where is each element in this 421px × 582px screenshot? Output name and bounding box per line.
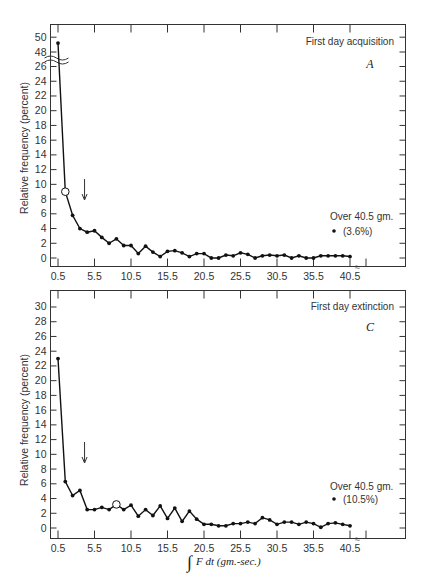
data-point [231,522,235,526]
panel-title: First day extinction [311,301,394,312]
data-point [129,244,133,248]
y-tick-label: 2 [41,507,47,519]
over-marker [332,229,336,233]
open-marker [113,501,121,509]
data-point [217,256,221,260]
data-point [341,522,345,526]
data-point [122,244,126,248]
y-tick-label: 50 [35,31,47,43]
x-tick-label: 25.5 [230,542,251,554]
data-point [93,508,97,512]
data-point [63,480,67,484]
data-point [282,253,286,257]
data-point [202,522,206,526]
open-marker [62,188,70,196]
data-point [136,514,140,518]
y-tick-label: 30 [35,300,47,312]
x-tick-label: 15.5 [157,542,178,554]
data-point [100,505,104,509]
over-value: (10.5%) [343,494,378,505]
data-point [195,252,199,256]
data-point [246,520,250,524]
y-tick-label: 18 [35,389,47,401]
data-point [290,256,294,260]
data-point [78,227,82,231]
data-point [312,256,316,260]
data-point [297,254,301,258]
axis-break-icon [45,60,69,64]
y-tick-label: 20 [35,104,47,116]
data-point [334,521,338,525]
axis-break-icon: ≈ [355,262,360,272]
y-axis-label: Relative frequency (percent) [18,354,30,486]
x-tick-label: 20.5 [194,270,215,282]
y-tick-label: 22 [35,89,47,101]
y-tick-label: 10 [35,178,47,190]
data-point [115,237,119,241]
integral-sign-icon: ∫ [186,552,193,573]
y-tick-label: 16 [35,404,47,416]
x-tick-label: 10.5 [121,542,142,554]
y-tick-label: 6 [41,477,47,489]
data-point [253,256,257,260]
data-point [304,256,308,260]
x-tick-label: 30.5 [267,270,288,282]
x-tick-label: 0.5 [51,270,66,282]
x-tick-label: 10.5 [121,270,142,282]
data-point [122,508,126,512]
y-tick-label: 12 [35,433,47,445]
panel-c: 0.55.510.515.520.525.530.535.540.5≈ 0246… [18,291,406,554]
y-tick-label: 4 [41,222,47,234]
data-point [71,494,75,498]
data-point [202,252,206,256]
x-axis-ticks: 0.55.510.515.520.525.530.535.540.5≈ [51,291,366,554]
data-point [246,252,250,256]
y-tick-label: 8 [41,193,47,205]
data-point [282,520,286,524]
data-point [158,504,162,508]
x-axis-ticks: 0.55.510.515.520.525.530.535.540.5≈ [51,25,366,282]
y-axis-label: Relative frequency (percent) [18,82,30,214]
data-point [188,509,192,513]
data-point [129,503,133,507]
data-point [253,522,257,526]
right-axis-ticks [400,37,406,258]
data-point [268,518,272,522]
panel-letter: A [365,57,374,71]
data-point [231,254,235,258]
axis-break-icon [45,56,69,60]
y-tick-label: 16 [35,134,47,146]
data-point [188,255,192,259]
panel-title: First day acquisition [306,36,394,47]
data-point [209,522,213,526]
y-tick-label: 0 [41,252,47,264]
x-tick-label: 5.5 [87,542,102,554]
x-tick-label: 35.5 [303,542,324,554]
data-line [58,43,350,258]
y-tick-label: 8 [41,463,47,475]
y-tick-label: 10 [35,448,47,460]
data-point [166,249,170,253]
data-point [151,514,155,518]
y-tick-label: 48 [35,46,47,58]
data-point [224,524,228,528]
data-point [209,256,213,260]
data-point [334,254,338,258]
y-tick-label: 2 [41,237,47,249]
y-tick-label: 28 [35,315,47,327]
data-point [107,241,111,245]
y-tick-label: 4 [41,492,47,504]
axis-break-icon: ≈ [355,534,360,544]
x-tick-label: 30.5 [267,542,288,554]
x-tick-label: 20.5 [194,542,215,554]
data-point [85,230,89,234]
data-point [261,516,265,520]
y-tick-label: 12 [35,163,47,175]
data-point [85,508,89,512]
x-axis-label-group: ∫ F dt (gm.-sec.) [186,552,261,573]
data-point [71,213,75,217]
y-axis-ticks: 024681012141618202224262830 [35,300,57,533]
y-tick-label: 22 [35,359,47,371]
data-point [100,235,104,239]
data-point [319,525,323,529]
